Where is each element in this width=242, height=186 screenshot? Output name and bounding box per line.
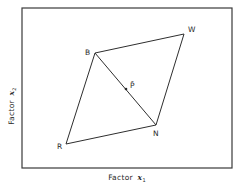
vertex-label-b: B: [85, 48, 90, 57]
vertex-label-w: W: [188, 25, 196, 34]
vertex-label-n: N: [153, 129, 159, 138]
edge-b-w: [95, 34, 184, 53]
edge-r-b: [66, 53, 95, 144]
y-axis-label: Factor x2: [7, 87, 17, 125]
edge-w-n: [156, 34, 184, 125]
factor-diagram: P̄ BWNR Factor x1 Factor x2: [0, 0, 242, 186]
plot-frame: [22, 8, 232, 168]
vertex-label-r: R: [57, 142, 62, 151]
edge-n-r: [66, 125, 156, 144]
x-axis-label: Factor x1: [108, 173, 146, 183]
center-point-label: P̄: [130, 81, 135, 90]
center-point-marker: [125, 88, 128, 91]
